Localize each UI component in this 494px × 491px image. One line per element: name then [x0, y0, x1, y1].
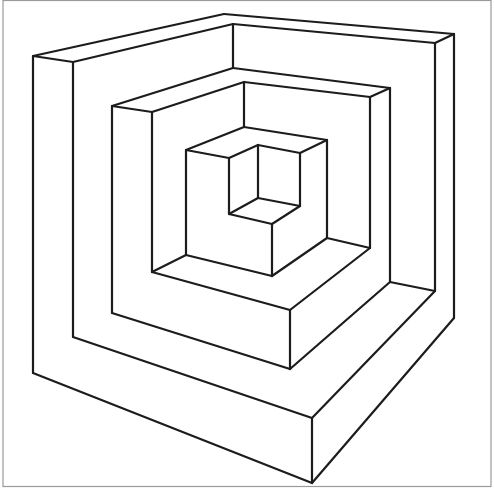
- edge-line: [152, 82, 244, 112]
- edge-line: [186, 255, 272, 276]
- edge-line: [73, 337, 312, 418]
- inner-cube-corner: [152, 127, 370, 276]
- edge-line: [152, 272, 290, 310]
- edge-line: [186, 127, 244, 150]
- edge-line: [229, 214, 272, 224]
- edge-line: [112, 313, 290, 369]
- edge-line: [112, 68, 233, 106]
- edge-line: [33, 373, 312, 483]
- figure-border: [3, 1, 491, 487]
- edge-line: [290, 248, 370, 310]
- edge-line: [224, 14, 454, 34]
- edge-line: [186, 150, 229, 158]
- edge-line: [312, 318, 454, 483]
- edge-line: [258, 198, 300, 206]
- edge-line: [229, 198, 258, 214]
- edge-line: [272, 206, 300, 224]
- edge-line: [244, 127, 327, 140]
- edge-line: [312, 291, 435, 418]
- edge-line: [370, 88, 390, 97]
- edge-line: [258, 145, 300, 153]
- edge-line: [112, 106, 152, 112]
- edge-line: [300, 140, 327, 153]
- edge-line: [233, 24, 435, 43]
- edge-line: [33, 56, 73, 62]
- edge-line: [390, 282, 435, 291]
- nested-cube-illusion-figure: [0, 0, 494, 491]
- edge-line: [290, 282, 390, 369]
- edge-line: [435, 34, 454, 43]
- edge-line: [152, 255, 186, 272]
- middle-tier-corner: [112, 68, 435, 369]
- edge-line: [327, 238, 370, 248]
- edge-line: [233, 68, 390, 88]
- edge-line: [272, 238, 327, 276]
- edge-line: [229, 145, 258, 158]
- edge-line: [244, 82, 370, 97]
